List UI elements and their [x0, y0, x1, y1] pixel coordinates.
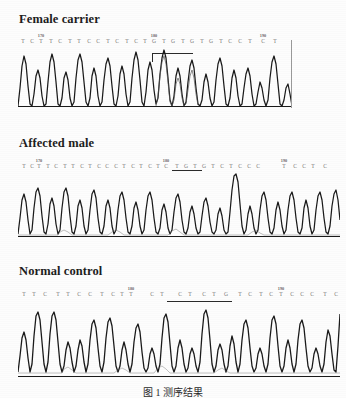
- trace-baseline-control: [18, 376, 340, 377]
- base-letter: T: [65, 291, 72, 297]
- trace-baseline-female: [18, 106, 292, 107]
- base-letter: C: [260, 38, 267, 44]
- base-letter: C: [130, 163, 137, 169]
- base-letter: C: [247, 291, 254, 297]
- base-letter: C: [42, 291, 49, 297]
- chromatogram-trace-normal-control: [18, 306, 340, 376]
- position-label: 170: [34, 33, 48, 38]
- base-letter: C: [268, 291, 275, 297]
- base-letter: T: [128, 291, 135, 297]
- sequencing-figure: Female carrier 170 180 190 T C T T C T T…: [0, 0, 346, 398]
- base-letter: T: [142, 38, 149, 44]
- base-letter: G: [183, 163, 190, 169]
- figure-caption: 图 1 测序结果: [0, 384, 346, 398]
- base-letter: C: [113, 163, 120, 169]
- base-letter: C: [322, 163, 329, 169]
- base-letter: T: [281, 163, 288, 169]
- base-letter: C: [149, 291, 156, 297]
- position-label: 190: [277, 158, 291, 163]
- base-letter: T: [36, 163, 43, 169]
- base-letter: T: [174, 163, 181, 169]
- base-letter: T: [67, 38, 74, 44]
- position-label: 180: [147, 33, 161, 38]
- base-letter: T: [180, 38, 187, 44]
- base-letter: T: [211, 291, 218, 297]
- base-letter: C: [147, 163, 154, 169]
- base-letter: T: [38, 38, 45, 44]
- panel-title-affected-male: Affected male: [19, 136, 94, 151]
- panel-female-carrier: Female carrier 170 180 190 T C T T C T T…: [0, 0, 346, 128]
- base-letter: T: [322, 291, 329, 297]
- base-letter: T: [21, 163, 28, 169]
- base-letter: T: [121, 163, 128, 169]
- base-letter: T: [124, 38, 131, 44]
- base-letter: C: [96, 163, 103, 169]
- base-letter: T: [247, 38, 254, 44]
- base-letter: G: [208, 38, 215, 44]
- position-label: 180: [124, 286, 138, 291]
- base-letter: C: [76, 291, 83, 297]
- base-letter: C: [29, 163, 36, 169]
- base-letter: C: [29, 38, 36, 44]
- base-letter: T: [87, 163, 94, 169]
- base-letter: C: [289, 291, 296, 297]
- base-letter: T: [105, 38, 112, 44]
- base-letter: C: [227, 38, 234, 44]
- sequence-row-normal-control: 180 190 T T C T T C C T C T T C T C T C …: [0, 286, 346, 299]
- panel-right-border-female: [291, 40, 292, 108]
- panel-affected-male: Affected male 170 180 190 T C T T C T T …: [0, 128, 346, 256]
- panel-title-normal-control: Normal control: [19, 264, 102, 279]
- trace-baseline-male: [18, 236, 340, 237]
- base-letter: T: [21, 291, 28, 297]
- base-letter: C: [110, 291, 117, 297]
- base-letter: C: [163, 163, 170, 169]
- base-letter: T: [138, 163, 145, 169]
- chromatogram-trace-affected-male: [18, 172, 340, 238]
- base-letter: G: [170, 38, 177, 44]
- base-letter: T: [159, 291, 166, 297]
- base-letter: T: [119, 291, 126, 297]
- base-letter: T: [76, 38, 83, 44]
- base-letter: T: [20, 38, 27, 44]
- position-label: 190: [274, 286, 288, 291]
- panel-normal-control: Normal control 180 190 T T C T T C C T C…: [0, 256, 346, 398]
- variant-marker-underline-male: [172, 170, 202, 171]
- position-label: 180: [159, 158, 173, 163]
- base-letter: G: [189, 38, 196, 44]
- base-letter: G: [201, 163, 208, 169]
- base-letter: T: [48, 38, 55, 44]
- base-letter: T: [199, 38, 206, 44]
- sequence-row-female-carrier: 170 180 190 T C T T C T T C C T C T C T …: [0, 33, 346, 46]
- base-letter: T: [258, 291, 265, 297]
- base-letter: C: [57, 38, 64, 44]
- base-letter: C: [95, 38, 102, 44]
- base-letter: C: [104, 163, 111, 169]
- base-letter: C: [86, 38, 93, 44]
- base-letter: C: [255, 163, 262, 169]
- base-letter: C: [114, 38, 121, 44]
- base-letter: C: [246, 163, 253, 169]
- base-letter: T: [55, 291, 62, 297]
- position-label: 170: [32, 158, 46, 163]
- base-letter: T: [218, 38, 225, 44]
- base-letter: C: [237, 38, 244, 44]
- base-letter: C: [219, 163, 226, 169]
- chromatogram-trace-female-carrier: [18, 48, 292, 110]
- base-letter: C: [301, 163, 308, 169]
- variant-marker-underline-control: [167, 301, 232, 302]
- base-letter: C: [201, 291, 208, 297]
- base-letter: C: [309, 291, 316, 297]
- base-letter: C: [299, 291, 306, 297]
- base-letter: T: [62, 163, 69, 169]
- base-letter: T: [155, 163, 162, 169]
- base-letter: T: [237, 291, 244, 297]
- base-letter: G: [151, 38, 158, 44]
- base-letter: T: [310, 163, 317, 169]
- base-letter: T: [70, 163, 77, 169]
- base-letter: C: [237, 163, 244, 169]
- base-letter: T: [161, 38, 168, 44]
- base-letter: C: [177, 291, 184, 297]
- base-letter: T: [192, 163, 199, 169]
- base-letter: C: [87, 291, 94, 297]
- base-letter: T: [99, 291, 106, 297]
